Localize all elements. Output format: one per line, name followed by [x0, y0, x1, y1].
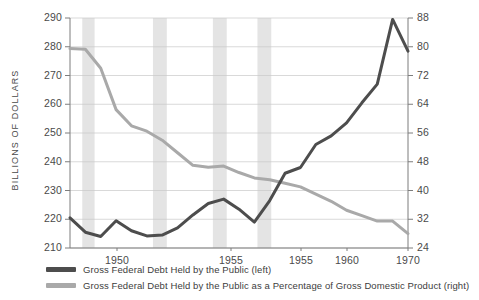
y-tick-label: 270: [34, 69, 62, 81]
legend-item-gdp-percentage: Gross Federal Debt Held by the Public as…: [46, 280, 469, 291]
y2-tick-label: 80: [417, 40, 447, 52]
y-axis-title: BILLIONS OF DOLLARS: [10, 35, 20, 225]
y2-tick-label: 48: [417, 155, 447, 167]
x-tick-label: 1960: [325, 254, 369, 266]
y-tick-label: 240: [34, 155, 62, 167]
legend-swatch-gdp-percentage: [46, 283, 76, 288]
y-tick-label: 260: [34, 97, 62, 109]
y2-tick-label: 32: [417, 212, 447, 224]
x-tick-label: 1955: [279, 254, 323, 266]
y-tick-label: 230: [34, 184, 62, 196]
y-tick-label: 250: [34, 126, 62, 138]
legend-label-gdp-percentage: Gross Federal Debt Held by the Public as…: [83, 280, 469, 291]
legend-item-debt: Gross Federal Debt Held by the Public (l…: [46, 264, 271, 275]
legend-label-debt: Gross Federal Debt Held by the Public (l…: [83, 264, 271, 275]
series-line-gdp-percentage: [70, 49, 408, 234]
y2-tick-label: 88: [417, 11, 447, 23]
legend-swatch-debt: [46, 267, 76, 272]
y-tick-label: 280: [34, 40, 62, 52]
y2-tick-label: 72: [417, 69, 447, 81]
y-tick-label: 290: [34, 11, 62, 23]
chart-container: BILLIONS OF DOLLARS 21022023024025026027…: [0, 0, 479, 300]
y-tick-label: 210: [34, 241, 62, 253]
y2-tick-label: 24: [417, 241, 447, 253]
y2-tick-label: 40: [417, 184, 447, 196]
y2-tick-label: 56: [417, 126, 447, 138]
x-tick-label: 1970: [386, 254, 430, 266]
series-line-debt: [70, 19, 408, 236]
y2-tick-label: 64: [417, 97, 447, 109]
y-tick-label: 220: [34, 212, 62, 224]
